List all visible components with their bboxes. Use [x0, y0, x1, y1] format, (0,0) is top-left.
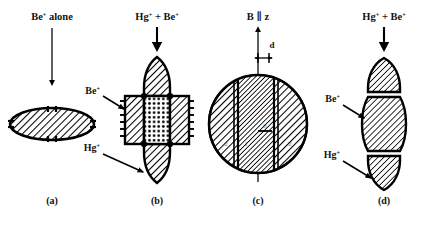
- panel-b-callout-be-text: Be: [85, 85, 97, 96]
- panel-b-callout-be-sup: +: [96, 85, 100, 92]
- panel-c-parallel-symbol: ∥: [254, 11, 265, 22]
- panel-b-right-column: [170, 96, 189, 144]
- panel-d-caption: (d): [378, 195, 390, 207]
- panel-b-species-mid: + Be: [152, 11, 175, 22]
- panel-a-species-tail: alone: [46, 11, 73, 22]
- panel-d-species-1: Hg: [362, 11, 376, 22]
- panel-b-caption: (b): [151, 195, 163, 207]
- panel-c-region-label-inner: 1: [244, 140, 248, 148]
- panel-d-callout-be-sup: +: [336, 93, 340, 100]
- panel-c-region-label-left: 2: [224, 140, 228, 148]
- panel-c-top-label: B ∥ z: [247, 11, 270, 22]
- panel-c-field-symbol: B: [247, 11, 254, 22]
- panel-d-callout-hg-text: Hg: [324, 149, 337, 160]
- panel-d-middle-block: [362, 97, 406, 151]
- panel-a-caption: (a): [46, 195, 58, 207]
- panel-b-top-label: Hg+ + Be+: [135, 11, 179, 23]
- panel-d-ion-cloud: [362, 58, 406, 190]
- panel-c-region-label-right: 2: [288, 140, 292, 148]
- panel-c-axis-symbol: z: [265, 11, 270, 22]
- panel-b-core-column: [144, 96, 170, 144]
- figure-root: Be+ alone (a) Hg+ + Be+: [0, 0, 446, 225]
- ion-cloud-figure: Be+ alone (a) Hg+ + Be+: [0, 0, 446, 225]
- panel-d-species-2-sup: +: [402, 11, 406, 18]
- panel-b-callout-hg-text: Hg: [84, 142, 97, 153]
- panel-d-top-label: Hg+ + Be+: [362, 11, 406, 23]
- panel-c-center-band-group: [234, 72, 278, 176]
- panel-a-ellipse: [10, 108, 94, 140]
- panel-b-callout-hg-sup: +: [96, 142, 100, 149]
- panel-b-species-1: Hg: [135, 11, 149, 22]
- panel-c-dimension-label: d: [269, 40, 274, 50]
- panel-c-center-band: [238, 72, 274, 176]
- panel-b-left-column: [125, 96, 144, 144]
- panel-d-callout-be-text: Be: [325, 93, 337, 104]
- panel-d-callout-hg-sup: +: [336, 149, 340, 156]
- panel-d-species-mid: + Be: [379, 11, 402, 22]
- panel-c-caption: (c): [252, 195, 263, 207]
- panel-c-cross-section: [209, 72, 307, 176]
- panel-c-region-label-b: b: [263, 122, 267, 130]
- panel-a-top-label: Be+ alone: [31, 11, 73, 23]
- panel-b-species-2-sup: +: [175, 11, 179, 18]
- panel-a-species: Be: [31, 11, 43, 22]
